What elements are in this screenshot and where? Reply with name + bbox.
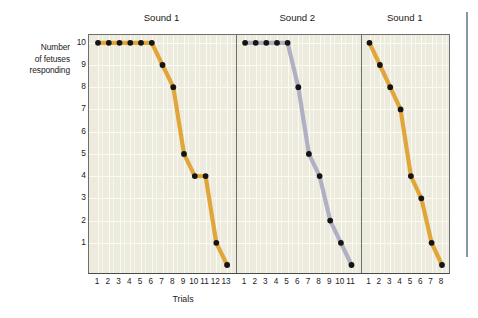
y-axis-tick-labels: 10987654321 [66,0,86,318]
data-point-marker [149,40,155,46]
y-tick-label: 4 [66,171,86,179]
data-point-marker [327,218,333,224]
y-axis-title-line-3: responding [2,65,70,77]
data-point-marker [203,173,209,179]
x-tick-label: 6 [418,278,423,286]
panel-title: Sound 1 [360,12,451,23]
data-point-marker [349,262,355,268]
data-point-marker [106,40,112,46]
x-tick-label: 4 [127,278,132,286]
data-point-marker [160,62,166,68]
x-tick-label: 3 [263,278,268,286]
x-tick-label: 7 [306,278,311,286]
y-axis-title-line-1: Number [2,42,70,54]
x-tick-label: 4 [397,278,402,286]
x-tick-label: 2 [105,278,110,286]
x-axis-title: Trials [0,294,478,304]
data-point-marker [138,40,144,46]
data-point-marker [95,40,101,46]
x-tick-label: 5 [284,278,289,286]
data-point-marker [306,151,312,157]
y-tick-label: 6 [66,126,86,134]
series-line [98,43,227,265]
x-tick-label: 9 [181,278,186,286]
x-tick-label: 12 [211,278,220,286]
x-tick-label: 13 [222,278,231,286]
series-line [245,43,351,265]
data-point-marker [408,173,414,179]
x-tick-label: 11 [346,278,355,286]
chart-figure: Number of fetuses responding 10987654321… [0,0,478,318]
data-point-marker [429,240,435,246]
data-point-marker [170,84,176,90]
y-tick-label: 5 [66,149,86,157]
x-tick-label: 4 [274,278,279,286]
x-tick-label: 2 [377,278,382,286]
plot-area [88,34,450,274]
data-point-marker [181,151,187,157]
right-margin-rule [466,12,468,257]
data-point-marker [295,84,301,90]
x-tick-label: 7 [159,278,164,286]
x-tick-label: 8 [316,278,321,286]
series-layer [89,35,450,274]
x-tick-label: 5 [408,278,413,286]
y-axis-title: Number of fetuses responding [2,42,70,77]
y-tick-label: 3 [66,193,86,201]
data-point-marker [127,40,133,46]
y-tick-label: 8 [66,82,86,90]
data-point-marker [263,40,269,46]
data-point-marker [317,173,323,179]
x-tick-label: 3 [387,278,392,286]
y-tick-label: 9 [66,60,86,68]
x-tick-label: 1 [242,278,247,286]
data-point-marker [377,62,383,68]
x-tick-label: 11 [200,278,209,286]
y-tick-label: 1 [66,238,86,246]
data-point-marker [117,40,123,46]
y-tick-label: 7 [66,104,86,112]
x-tick-label: 1 [366,278,371,286]
y-tick-label: 2 [66,215,86,223]
y-axis-title-line-2: of fetuses [2,54,70,66]
x-tick-label: 8 [170,278,175,286]
x-tick-label: 7 [428,278,433,286]
panel-title: Sound 2 [235,12,359,23]
x-tick-label: 10 [189,278,198,286]
data-point-marker [338,240,344,246]
data-point-marker [192,173,198,179]
x-tick-label: 1 [95,278,100,286]
x-tick-label: 2 [252,278,257,286]
x-tick-label: 3 [116,278,121,286]
data-point-marker [274,40,280,46]
x-tick-label: 5 [138,278,143,286]
x-tick-label: 9 [327,278,332,286]
x-tick-label: 10 [335,278,344,286]
data-point-marker [387,84,393,90]
x-tick-label: 8 [439,278,444,286]
data-point-marker [242,40,248,46]
x-tick-label: 6 [148,278,153,286]
data-point-marker [285,40,291,46]
data-point-marker [418,195,424,201]
data-point-marker [439,262,445,268]
data-point-marker [253,40,259,46]
y-tick-label: 10 [66,38,86,46]
x-tick-label: 6 [295,278,300,286]
data-point-marker [367,40,373,46]
x-axis-title-text: Trials [172,294,193,304]
data-point-marker [213,240,219,246]
panel-title: Sound 1 [88,12,235,23]
series-line [370,43,443,265]
data-point-marker [224,262,230,268]
data-point-marker [398,107,404,113]
